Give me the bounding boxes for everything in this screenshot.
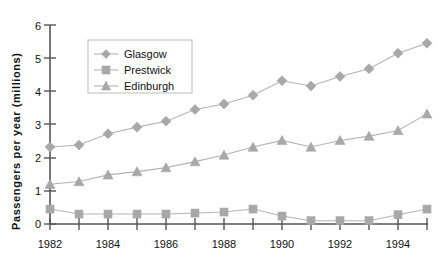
triangle-marker [277, 136, 287, 145]
line-chart: Passengers per year (millions) 6 5 4 3 2… [0, 0, 442, 271]
square-marker [46, 205, 54, 213]
x-tick-label: 1990 [270, 238, 294, 250]
diamond-marker [306, 81, 316, 91]
series-edinburgh [45, 109, 432, 188]
square-marker [307, 217, 315, 225]
diamond-marker [393, 48, 403, 58]
chart-canvas: Passengers per year (millions) 6 5 4 3 2… [0, 0, 442, 271]
diamond-marker [132, 122, 142, 132]
diamond-marker [74, 140, 84, 150]
diamond-marker [248, 90, 258, 100]
square-marker [278, 212, 286, 220]
square-marker [191, 209, 199, 217]
y-tick-label: 0 [35, 218, 41, 230]
x-tick-labels: 1982 1984 1986 1988 1990 1992 1994 [38, 238, 410, 250]
y-tick-label: 1 [35, 185, 41, 197]
square-marker [162, 210, 170, 218]
y-tick-label: 6 [35, 20, 41, 32]
legend: Glasgow Prestwick Edinburgh [88, 40, 192, 93]
diamond-marker [219, 99, 229, 109]
square-marker [365, 217, 373, 225]
y-tick-label: 2 [35, 152, 41, 164]
square-icon [102, 66, 110, 74]
legend-label-prestwick: Prestwick [124, 64, 172, 76]
x-tick-label: 1988 [212, 238, 236, 250]
diamond-marker [103, 129, 113, 139]
x-tick-label: 1992 [328, 238, 352, 250]
legend-label-edinburgh: Edinburgh [124, 80, 174, 92]
x-tick-label: 1994 [386, 238, 410, 250]
square-marker [249, 205, 257, 213]
triangle-marker [393, 126, 403, 135]
diamond-marker [277, 76, 287, 86]
diamond-marker [335, 71, 345, 81]
diamond-marker [364, 64, 374, 74]
y-tick-label: 4 [35, 86, 41, 98]
y-tick-label: 3 [35, 119, 41, 131]
x-tick-label: 1986 [154, 238, 178, 250]
diamond-marker [45, 142, 55, 152]
square-marker [104, 210, 112, 218]
diamond-marker [190, 105, 200, 115]
series-prestwick [46, 205, 431, 225]
square-marker [220, 208, 228, 216]
y-axis-title: Passengers per year (millions) [10, 52, 22, 230]
y-tick-labels: 6 5 4 3 2 1 0 [35, 20, 41, 230]
diamond-marker [161, 116, 171, 126]
square-marker [394, 211, 402, 219]
x-tick-label: 1984 [96, 238, 120, 250]
triangle-marker [219, 150, 229, 159]
square-marker [336, 217, 344, 225]
legend-label-glasgow: Glasgow [124, 48, 167, 60]
square-marker [133, 210, 141, 218]
square-marker [75, 210, 83, 218]
square-marker [423, 205, 431, 213]
diamond-marker [422, 38, 432, 48]
triangle-marker [422, 109, 432, 118]
y-tick-label: 5 [35, 53, 41, 65]
x-tick-label: 1982 [38, 238, 62, 250]
